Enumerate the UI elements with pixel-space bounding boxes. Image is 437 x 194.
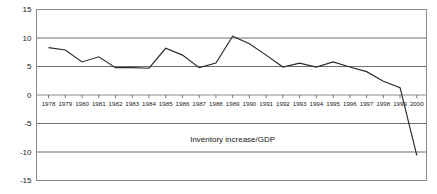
x-tick-label-1980: 1980 <box>75 100 89 107</box>
y-tick-label-15: 15 <box>23 5 32 14</box>
x-axis-labels: 1978197919801981198219831984198519861987… <box>42 100 425 107</box>
x-tick-label-1993: 1993 <box>293 100 307 107</box>
x-tick-label-1996: 1996 <box>343 100 357 107</box>
x-tick-label-2000: 2000 <box>410 100 424 107</box>
x-tick-label-1992: 1992 <box>276 100 290 107</box>
y-tick-label-0: 0 <box>27 91 32 100</box>
chart-container: 151050-5-10-15 1978197919801981198219831… <box>0 0 437 194</box>
y-tick-label--5: -5 <box>24 119 32 128</box>
x-tick-label-1986: 1986 <box>176 100 190 107</box>
x-tick-label-1979: 1979 <box>58 100 72 107</box>
x-tick-label-1985: 1985 <box>159 100 173 107</box>
chart-annotations: Inventory increase/GDP <box>190 135 275 144</box>
x-tick-label-1998: 1998 <box>376 100 390 107</box>
x-tick-label-1984: 1984 <box>142 100 156 107</box>
x-tick-label-1999: 1999 <box>393 100 407 107</box>
x-tick-label-1994: 1994 <box>309 100 323 107</box>
y-tick-label--10: -10 <box>20 148 32 157</box>
x-tick-label-1995: 1995 <box>326 100 340 107</box>
x-tick-label-1997: 1997 <box>360 100 374 107</box>
y-tick-label--15: -15 <box>20 176 32 185</box>
x-tick-label-1987: 1987 <box>192 100 206 107</box>
line-chart: 151050-5-10-15 1978197919801981198219831… <box>0 0 437 194</box>
y-tick-label-5: 5 <box>27 62 32 71</box>
x-tick-label-1982: 1982 <box>109 100 123 107</box>
x-tick-label-1989: 1989 <box>226 100 240 107</box>
x-tick-label-1981: 1981 <box>92 100 106 107</box>
y-tick-label-10: 10 <box>23 34 32 43</box>
x-tick-label-1978: 1978 <box>42 100 56 107</box>
x-tick-label-1990: 1990 <box>243 100 257 107</box>
x-tick-label-1991: 1991 <box>259 100 273 107</box>
x-tick-label-1988: 1988 <box>209 100 223 107</box>
annotation-label-0: Inventory increase/GDP <box>190 135 275 144</box>
x-tick-label-1983: 1983 <box>125 100 139 107</box>
